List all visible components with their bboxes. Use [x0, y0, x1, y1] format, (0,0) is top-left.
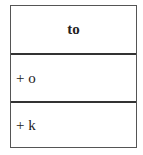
uml-class-box: to + o + k: [10, 5, 137, 148]
class-name: to: [67, 21, 80, 38]
attribute-row: + k: [11, 103, 136, 148]
attribute-label: + k: [16, 117, 36, 134]
class-name-section: to: [11, 6, 136, 53]
attribute-row: + o: [11, 55, 136, 101]
attribute-label: + o: [16, 70, 36, 87]
